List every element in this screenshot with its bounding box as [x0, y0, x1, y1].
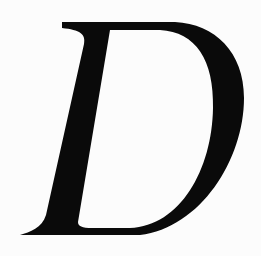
- scanned-page: D: [0, 0, 261, 256]
- drop-cap-d-glyph: [0, 0, 261, 256]
